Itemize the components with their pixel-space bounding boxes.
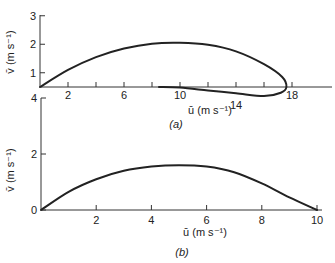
x-tick-label: 18: [286, 89, 298, 101]
x-tick-label: 6: [204, 214, 210, 226]
hodograph-figure: 26101418123ū (m s⁻¹)v̄ (m s⁻¹)(a) 246810…: [0, 0, 335, 263]
y-tick-label: 4: [31, 92, 37, 104]
y-tick-label: 2: [31, 148, 37, 160]
x-tick-label: 4: [148, 214, 154, 226]
hodograph-curve: [41, 165, 317, 210]
panel-a-chart: 26101418123ū (m s⁻¹)v̄ (m s⁻¹)(a): [4, 10, 332, 130]
y-axis-label: v̄ (m s⁻¹): [4, 148, 16, 191]
y-tick-label: 2: [30, 38, 36, 50]
x-axis-label: ū (m s⁻¹): [188, 104, 232, 116]
x-tick-label: 6: [121, 89, 127, 101]
hodograph-curve: [40, 43, 286, 96]
x-tick-label: 2: [65, 89, 71, 101]
y-tick-label: 0: [31, 204, 37, 216]
x-axis-label: ū (m s⁻¹): [183, 226, 227, 238]
x-tick-label: 2: [93, 214, 99, 226]
y-axis-label: v̄ (m s⁻¹): [4, 30, 16, 73]
x-tick-label: 10: [311, 214, 323, 226]
panel-label: (b): [175, 246, 189, 258]
x-tick-label: 8: [259, 214, 265, 226]
y-tick-label: 1: [30, 67, 36, 79]
y-tick-label: 3: [30, 10, 36, 22]
x-tick-label: 10: [174, 89, 186, 101]
panel-b-chart: 246810024ū (m s⁻¹)v̄ (m s⁻¹)(b): [4, 92, 323, 258]
panel-label: (a): [169, 118, 183, 130]
